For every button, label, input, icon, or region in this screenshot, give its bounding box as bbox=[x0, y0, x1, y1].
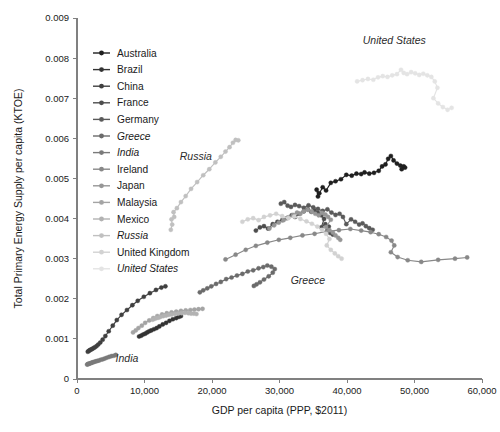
legend-swatch-marker bbox=[99, 200, 104, 205]
y-tick-label: 0.001 bbox=[45, 333, 69, 344]
data-point bbox=[344, 222, 348, 226]
legend-item-label: Ireland bbox=[117, 164, 148, 175]
data-point bbox=[341, 215, 345, 219]
data-point bbox=[171, 210, 175, 214]
data-point bbox=[175, 206, 179, 210]
legend-item-ireland[interactable]: Ireland bbox=[93, 164, 148, 175]
data-point bbox=[274, 212, 278, 216]
x-tick-label: 20,000 bbox=[197, 385, 226, 396]
data-point bbox=[325, 207, 329, 211]
data-point bbox=[254, 244, 258, 248]
legend-swatch-marker bbox=[99, 117, 104, 122]
data-point bbox=[377, 232, 381, 236]
data-point bbox=[125, 308, 129, 312]
data-point bbox=[355, 79, 359, 83]
data-point bbox=[262, 277, 266, 281]
data-point bbox=[195, 180, 199, 184]
legend-item-united-states[interactable]: United States bbox=[93, 263, 178, 274]
legend-swatch-marker bbox=[99, 51, 104, 56]
data-point bbox=[224, 277, 228, 281]
legend-item-france[interactable]: France bbox=[93, 97, 149, 108]
legend-item-china[interactable]: China bbox=[93, 81, 144, 92]
legend-item-india[interactable]: India bbox=[93, 147, 139, 158]
legend-swatch-marker bbox=[99, 134, 104, 139]
data-point bbox=[184, 194, 188, 198]
data-point bbox=[298, 217, 302, 221]
data-point bbox=[140, 324, 144, 328]
y-tick-label: 0.005 bbox=[45, 173, 69, 184]
legend-item-germany[interactable]: Germany bbox=[93, 114, 160, 125]
data-point bbox=[376, 75, 380, 79]
data-point bbox=[246, 217, 250, 221]
legend-swatch-marker bbox=[99, 217, 104, 222]
legend-item-malaysia[interactable]: Malaysia bbox=[93, 197, 158, 208]
data-point bbox=[272, 223, 276, 227]
legend-item-label: India bbox=[117, 147, 139, 158]
legend-item-russia[interactable]: Russia bbox=[93, 230, 148, 241]
data-point bbox=[348, 227, 352, 231]
y-tick-label: 0.007 bbox=[45, 93, 69, 104]
legend-item-label: Brazil bbox=[117, 64, 142, 75]
data-point bbox=[229, 275, 233, 279]
data-point bbox=[337, 228, 341, 232]
data-point bbox=[111, 324, 115, 328]
legend-item-greece[interactable]: Greece bbox=[93, 131, 151, 142]
data-point bbox=[169, 228, 173, 232]
data-point bbox=[360, 78, 364, 82]
data-point bbox=[349, 217, 353, 221]
data-point bbox=[194, 312, 198, 316]
data-point bbox=[329, 210, 333, 214]
data-point bbox=[251, 268, 255, 272]
data-point bbox=[227, 145, 231, 149]
legend-item-mexico[interactable]: Mexico bbox=[93, 214, 150, 225]
data-point bbox=[409, 70, 413, 74]
data-point bbox=[390, 73, 394, 77]
data-point bbox=[329, 181, 333, 185]
annotation-united-states: United States bbox=[363, 34, 427, 46]
data-point bbox=[333, 179, 337, 183]
data-point bbox=[256, 218, 260, 222]
data-point bbox=[172, 215, 176, 219]
legend-swatch-marker bbox=[99, 100, 104, 105]
series-india bbox=[85, 353, 118, 367]
data-point bbox=[223, 257, 227, 261]
data-point bbox=[306, 203, 310, 207]
data-point bbox=[286, 216, 290, 220]
data-point bbox=[366, 77, 370, 81]
data-point bbox=[306, 208, 310, 212]
data-point bbox=[189, 187, 193, 191]
annotation-greece: Greece bbox=[291, 274, 326, 286]
y-tick-label: 0 bbox=[64, 373, 69, 384]
data-point bbox=[433, 79, 437, 83]
annotation-russia: Russia bbox=[180, 150, 212, 162]
data-point bbox=[403, 166, 407, 170]
legend-swatch-marker bbox=[99, 250, 104, 255]
data-point bbox=[324, 188, 328, 192]
legend-item-label: Japan bbox=[117, 180, 145, 191]
data-point bbox=[384, 235, 388, 239]
data-point bbox=[107, 329, 111, 333]
x-tick-label: 40,000 bbox=[332, 385, 361, 396]
legend-swatch-marker bbox=[99, 150, 104, 155]
data-point bbox=[143, 321, 147, 325]
data-point bbox=[413, 71, 417, 75]
data-point bbox=[267, 274, 271, 278]
data-point bbox=[367, 172, 371, 176]
legend-item-japan[interactable]: Japan bbox=[93, 180, 145, 191]
legend-item-label: China bbox=[117, 81, 144, 92]
data-point bbox=[360, 221, 364, 225]
data-point bbox=[353, 220, 357, 224]
legend-item-brazil[interactable]: Brazil bbox=[93, 64, 142, 75]
data-point bbox=[406, 258, 410, 262]
x-tick-label: 30,000 bbox=[265, 385, 294, 396]
data-point bbox=[389, 250, 393, 254]
data-point bbox=[436, 258, 440, 262]
legend-item-united-kingdom[interactable]: United Kingdom bbox=[93, 247, 190, 258]
data-point bbox=[445, 108, 449, 112]
legend-item-australia[interactable]: Australia bbox=[93, 48, 157, 59]
legend-swatch-marker bbox=[99, 67, 104, 72]
data-point bbox=[214, 282, 218, 286]
legend-item-label: Mexico bbox=[117, 214, 150, 225]
data-point bbox=[362, 170, 366, 174]
series-line bbox=[226, 229, 468, 262]
